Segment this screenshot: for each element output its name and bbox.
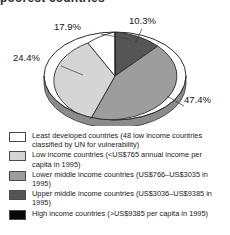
- pie-label-47-4: 47.4%: [184, 94, 211, 105]
- legend-item-low-income: Low income countries (<US$765 annual inc…: [0, 150, 230, 168]
- pie-svg: [43, 26, 188, 126]
- pie-slices: [54, 32, 177, 120]
- chart-area: 17.9% 10.3% 24.4% 47.4%: [0, 8, 230, 128]
- legend-swatch-icon: [9, 132, 26, 142]
- legend-swatch-icon: [9, 190, 26, 200]
- figure-title-clipped: poorest countries: [0, 0, 230, 5]
- legend-item-label: High income countries (>US$9385 per capi…: [32, 209, 208, 218]
- page-title: poorest countries: [0, 0, 230, 5]
- legend-item-label: Lower middle income countries (US$766–US…: [32, 170, 222, 188]
- pie-label-24-4: 24.4%: [13, 52, 40, 63]
- legend-item-high-income: High income countries (>US$9385 per capi…: [0, 209, 230, 220]
- chart-legend: Least developed countries (48 low income…: [0, 131, 230, 235]
- legend-item-lower-middle-income: Lower middle income countries (US$766–US…: [0, 170, 230, 188]
- legend-swatch-icon: [9, 171, 26, 181]
- legend-swatch-icon: [9, 151, 26, 161]
- legend-item-label: Least developed countries (48 low income…: [32, 131, 222, 149]
- legend-item-upper-middle-income: Upper middle income countries (US$3036–U…: [0, 189, 230, 207]
- legend-swatch-icon: [9, 210, 26, 220]
- legend-item-least-developed: Least developed countries (48 low income…: [0, 131, 230, 149]
- pie-label-17-9: 17.9%: [54, 21, 81, 32]
- legend-item-label: Upper middle income countries (US$3036–U…: [32, 189, 222, 207]
- pie-chart-figure: poorest countries: [0, 0, 230, 235]
- pie-label-10-3: 10.3%: [129, 15, 156, 26]
- legend-item-label: Low income countries (<US$765 annual inc…: [32, 150, 222, 168]
- pie-graphic: [43, 26, 188, 126]
